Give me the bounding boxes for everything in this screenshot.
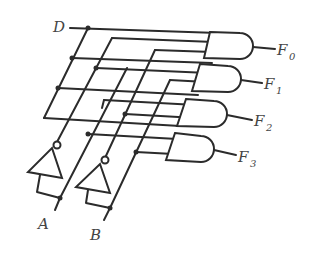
and-gate-f2	[177, 99, 252, 127]
label-f2-sub: 2	[265, 122, 272, 133]
and-gate-f3	[166, 133, 236, 162]
decoder-circuit: D A B F 0 F 1 F 2 F 3	[0, 0, 331, 254]
not-gate-a	[28, 142, 62, 199]
label-f3: F	[237, 148, 249, 166]
label-f1-sub: 1	[276, 85, 282, 96]
label-f0: F	[276, 41, 288, 59]
label-d: D	[52, 18, 65, 36]
and-gate-f0	[204, 32, 275, 59]
label-f1: F	[263, 75, 275, 93]
not-gate-b	[76, 157, 110, 209]
label-a: A	[36, 215, 49, 233]
label-f3-sub: 3	[250, 158, 256, 169]
and-gate-f1	[192, 64, 262, 92]
label-b: B	[89, 226, 101, 244]
label-f0-sub: 0	[289, 51, 296, 62]
label-f2: F	[253, 112, 265, 130]
